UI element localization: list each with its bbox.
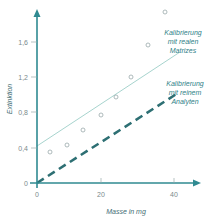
dashed-calibration-line — [37, 93, 178, 183]
data-points — [48, 10, 167, 154]
y-tick-label: 0,8 — [18, 109, 28, 116]
y-axis-arrow-icon — [34, 9, 41, 17]
y-ticks — [31, 42, 37, 148]
svg-text:Kalibrierung: Kalibrierung — [166, 80, 203, 88]
svg-text:Matrizes: Matrizes — [170, 47, 197, 54]
svg-text:mit realen: mit realen — [168, 38, 199, 45]
x-axis-arrow-icon — [193, 180, 201, 187]
x-axis-title: Masse in mg — [106, 208, 146, 216]
y-tick-label: 0,4 — [18, 145, 28, 152]
data-point — [114, 95, 118, 99]
y-tick-label: 1,2 — [18, 74, 28, 81]
y-tick-label: 1,6 — [18, 39, 28, 46]
x-tick-label: 0 — [35, 191, 39, 198]
x-tick-label: 20 — [97, 191, 105, 198]
y-tick-label: 0 — [24, 180, 28, 187]
data-point — [81, 128, 85, 132]
x-tick-label: 40 — [170, 191, 178, 198]
y-axis-title: Extinktion — [6, 84, 13, 114]
solid-calibration-line — [37, 52, 180, 146]
svg-text:Analyten: Analyten — [170, 98, 198, 106]
data-point — [163, 10, 167, 14]
data-point — [65, 143, 69, 147]
annotation-real-matrices: Kalibrierung mit realen Matrizes — [164, 29, 201, 54]
data-point — [48, 150, 52, 154]
annotation-pure-analyte: Kalibrierung mit reinem Analyten — [166, 80, 203, 106]
data-point — [146, 43, 150, 47]
svg-text:Kalibrierung: Kalibrierung — [164, 29, 201, 37]
data-point — [129, 75, 133, 79]
data-point — [99, 113, 103, 117]
svg-text:mit reinem: mit reinem — [169, 89, 202, 96]
calibration-chart: 0 0,4 0,8 1,2 1,6 0 20 40 Masse in mg Ex… — [0, 0, 221, 224]
